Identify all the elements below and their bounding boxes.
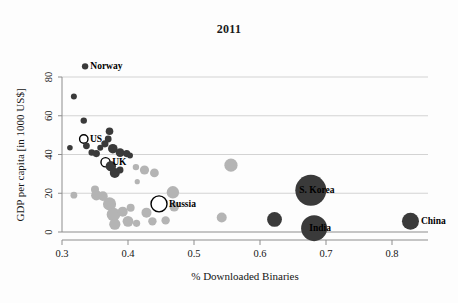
bubble-point <box>148 217 156 225</box>
bubble-point <box>109 219 120 230</box>
bubble-point <box>106 127 114 135</box>
bubble-point <box>117 167 124 174</box>
bubble-us <box>80 135 88 143</box>
bubble-point <box>127 204 135 212</box>
bubble-point <box>105 136 112 143</box>
bubble-norway <box>82 63 88 69</box>
bubble-point <box>67 145 73 151</box>
bubble-point <box>123 216 134 227</box>
point-label-group: NorwayUSUKRussiaS. KoreaIndiaChina <box>90 61 446 233</box>
bubble-point <box>93 150 100 157</box>
bubble-point <box>167 186 179 198</box>
y-tick-label: 40 <box>43 149 54 160</box>
bubble-point <box>224 159 237 172</box>
bubble-point <box>141 208 151 218</box>
point-label-s-korea: S. Korea <box>299 185 334 195</box>
bubble-russia <box>151 196 167 212</box>
bubble-point <box>116 148 125 157</box>
x-tick-label: 0.5 <box>187 248 200 259</box>
x-tick-label: 0.3 <box>55 248 68 259</box>
bubble-point <box>71 93 77 99</box>
bubble-point <box>217 212 227 222</box>
bubble-chart-figure: 2011 020406080 0.30.40.50.60.70.8 Norway… <box>0 0 458 303</box>
x-tick-label: 0.4 <box>121 248 135 259</box>
bubble-point <box>140 165 149 174</box>
bubble-point <box>133 220 140 227</box>
point-label-norway: Norway <box>90 61 122 71</box>
bubble-point <box>83 142 90 149</box>
y-axis-title: GDP per capita [in 1000 US$] <box>14 88 26 221</box>
point-label-uk: UK <box>112 157 127 167</box>
bubble-point <box>127 152 133 158</box>
x-tick-group: 0.30.40.50.60.70.8 <box>55 240 398 259</box>
point-label-india: India <box>309 223 331 233</box>
bubble-point <box>135 179 140 184</box>
bubble-point <box>161 216 169 224</box>
bubble-china <box>402 213 419 230</box>
bubble-point <box>70 192 77 199</box>
y-tick-label: 20 <box>43 188 54 199</box>
bubble-point <box>150 169 159 178</box>
x-tick-label: 0.8 <box>385 248 398 259</box>
x-axis-title: % Downloaded Binaries <box>191 270 299 282</box>
bubble-series <box>67 63 419 241</box>
y-tick-label: 0 <box>43 229 54 234</box>
x-tick-label: 0.6 <box>253 248 266 259</box>
bubble-point <box>267 212 282 227</box>
point-label-us: US <box>90 134 102 144</box>
bubble-point <box>118 207 128 217</box>
plot-area: 020406080 0.30.40.50.60.70.8 NorwayUSUKR… <box>0 0 458 303</box>
bubble-point <box>133 164 139 170</box>
y-tick-label: 80 <box>43 72 54 83</box>
y-tick-label: 60 <box>43 111 54 122</box>
y-tick-group: 020406080 <box>43 72 62 235</box>
point-label-china: China <box>421 216 446 226</box>
bubble-point <box>81 117 87 123</box>
point-label-russia: Russia <box>169 199 196 209</box>
x-tick-label: 0.7 <box>319 248 332 259</box>
